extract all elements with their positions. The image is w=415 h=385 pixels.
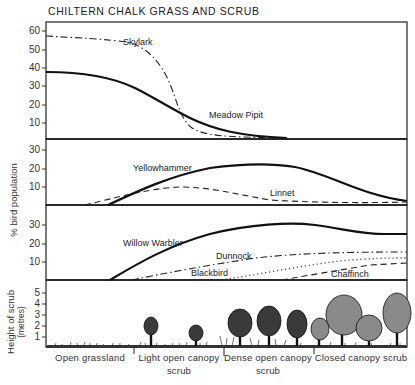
x-label-closed-canopy: Closed canopy scrub — [315, 352, 408, 363]
svg-text:30: 30 — [29, 219, 41, 230]
series-skylark — [46, 36, 285, 138]
panel-4-y-axis: 5 4 3 2 1 — [34, 287, 46, 342]
svg-text:5: 5 — [34, 287, 40, 298]
chart-canvas: CHILTERN CHALK GRASS AND SCRUB 60 50 40 … — [0, 0, 415, 385]
label-dunnock: Dunnock — [216, 251, 252, 261]
svg-text:30: 30 — [29, 80, 41, 91]
svg-text:10: 10 — [29, 256, 41, 267]
panel-2-y-axis: 30 20 10 — [29, 144, 46, 192]
label-blackbird: Blackbird — [191, 268, 228, 278]
svg-text:1: 1 — [34, 331, 40, 342]
svg-text:20: 20 — [29, 99, 41, 110]
x-label-light-open-canopy: Light open canopy — [138, 352, 219, 363]
x-label-dense-open-canopy: Dense open canopy — [224, 352, 312, 363]
tree-icon — [356, 315, 382, 341]
svg-text:20: 20 — [29, 163, 41, 174]
label-meadow-pipit: Meadow Pipit — [209, 110, 264, 120]
tree-icon — [287, 310, 307, 338]
x-label-open-grassland: Open grassland — [55, 352, 125, 363]
svg-text:10: 10 — [29, 117, 41, 128]
label-skylark: Skylark — [123, 37, 153, 47]
x-label-light-open-canopy-2: scrub — [167, 365, 191, 376]
svg-text:30: 30 — [29, 144, 41, 155]
svg-text:60: 60 — [29, 25, 41, 36]
tree-icon — [257, 306, 281, 336]
y-axis-label-birds: % bird population — [8, 163, 19, 236]
x-label-dense-open-canopy-2: scrub — [256, 365, 280, 376]
series-blackbird — [222, 258, 407, 280]
y-axis-label-scrub: Height of scrub — [5, 290, 16, 354]
y-axis-label-scrub-units: (metres) — [16, 306, 26, 338]
tree-icon — [311, 318, 329, 340]
svg-text:20: 20 — [29, 238, 41, 249]
chart-title: CHILTERN CHALK GRASS AND SCRUB — [48, 5, 260, 17]
label-linnet: Linnet — [270, 188, 295, 198]
label-yellowhammer: Yellowhammer — [133, 163, 192, 173]
panel-2-frame — [46, 139, 407, 205]
series-meadow-pipit — [46, 72, 287, 138]
panel-3-y-axis: 30 20 10 — [29, 219, 46, 267]
scrub-illustration — [47, 293, 411, 346]
tree-icon — [189, 325, 203, 341]
svg-text:40: 40 — [29, 62, 41, 73]
grass-icon — [55, 336, 400, 346]
tree-icon — [383, 293, 411, 333]
svg-text:4: 4 — [34, 298, 40, 309]
svg-text:2: 2 — [34, 320, 40, 331]
svg-text:50: 50 — [29, 44, 41, 55]
tree-icon — [144, 317, 158, 335]
panel-1-y-axis: 60 50 40 30 20 10 — [29, 25, 46, 128]
label-chaffinch: Chaffinch — [331, 269, 369, 279]
svg-text:3: 3 — [34, 309, 40, 320]
label-willow-warbler: Willow Warbler — [123, 238, 183, 248]
svg-text:10: 10 — [29, 181, 41, 192]
tree-icon — [228, 309, 252, 337]
